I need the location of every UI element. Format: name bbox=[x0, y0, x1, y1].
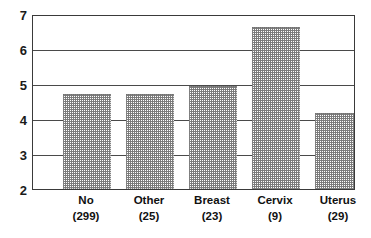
y-axis-tick-5: 5 bbox=[0, 79, 27, 92]
bar-other[interactable] bbox=[126, 94, 174, 189]
x-axis: No (299) Other (25) Breast (23) Cervix (… bbox=[32, 193, 355, 238]
bar-chart: 7 6 5 4 3 2 bbox=[0, 0, 371, 238]
y-axis-tick-7: 7 bbox=[0, 9, 27, 22]
bar-top-edge bbox=[252, 27, 300, 28]
x-axis-label-uterus: Uterus (29) bbox=[298, 193, 371, 224]
y-axis-tick-6: 6 bbox=[0, 44, 27, 57]
y-axis: 7 6 5 4 3 2 bbox=[0, 0, 27, 238]
bar-top-edge bbox=[315, 113, 355, 114]
x-axis-label-name: Uterus bbox=[298, 193, 371, 209]
y-axis-tick-3: 3 bbox=[0, 149, 27, 162]
bar-top-edge bbox=[189, 86, 237, 87]
bar-top-edge bbox=[63, 94, 111, 95]
y-axis-tick-2: 2 bbox=[0, 184, 27, 197]
bar-breast[interactable] bbox=[189, 86, 237, 189]
x-axis-label-count: (29) bbox=[298, 209, 371, 225]
bar-no[interactable] bbox=[63, 94, 111, 189]
bar-uterus[interactable] bbox=[315, 113, 355, 189]
plot-area bbox=[32, 15, 355, 190]
bar-top-edge bbox=[126, 94, 174, 95]
y-axis-tick-4: 4 bbox=[0, 114, 27, 127]
bar-cervix[interactable] bbox=[252, 27, 300, 189]
bars-layer bbox=[33, 16, 354, 189]
